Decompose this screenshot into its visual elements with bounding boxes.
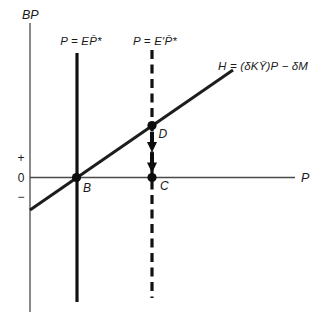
tick-plus-label: + xyxy=(17,151,24,165)
h-schedule-label: H = (δKȲ)P − δM xyxy=(218,60,308,72)
point-b-label: B xyxy=(83,181,91,195)
point-d-dot xyxy=(147,121,156,130)
h-schedule-line xyxy=(30,70,233,210)
x-axis-label: P xyxy=(301,171,310,185)
figure-canvas: BP P + 0 − P = EP̄* P = E′P̄* H = (δKȲ)P… xyxy=(0,0,319,332)
dashed-vertical-line-label: P = E′P̄* xyxy=(133,35,177,47)
down-arrow-icon-2 xyxy=(147,153,157,174)
point-b-dot xyxy=(72,173,81,182)
solid-vertical-line-label: P = EP̄* xyxy=(60,35,102,47)
point-c-dot xyxy=(147,173,156,182)
tick-zero-label: 0 xyxy=(18,171,25,185)
bp-diagram: BP P + 0 − P = EP̄* P = E′P̄* H = (δKȲ)P… xyxy=(0,0,319,332)
y-axis-label: BP xyxy=(22,8,39,22)
down-arrow-icon-1 xyxy=(147,132,157,153)
tick-minus-label: − xyxy=(17,190,24,204)
point-d-label: D xyxy=(159,127,168,141)
point-c-label: C xyxy=(160,179,169,193)
